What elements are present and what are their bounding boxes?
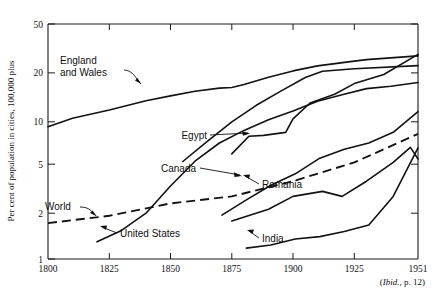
- y-tick-label-50: 50: [34, 20, 44, 30]
- arrowhead-egypt: [242, 131, 250, 136]
- citation-rest: , p. 12): [400, 277, 426, 287]
- annotation-united-states: United States: [100, 226, 180, 240]
- x-ticks: [109, 24, 354, 259]
- annotation-romania: Romania: [243, 175, 302, 191]
- arrowhead-canada: [234, 172, 242, 177]
- arrowhead-england: [135, 78, 141, 84]
- arrowhead-romania: [243, 175, 250, 180]
- axes-frame: [48, 24, 418, 259]
- label-romania: Romania: [262, 179, 302, 190]
- y-axis-title: Per cent of population in cities, 100,00…: [6, 60, 16, 222]
- x-tick-label-1800: 1800: [39, 264, 58, 274]
- label-england-line1: England: [60, 55, 97, 66]
- x-tick-label-1850: 1850: [161, 264, 180, 274]
- series-line-world: [48, 134, 418, 223]
- figure-container: 50 20 10 5 2 1 1800 1825 1850 1875 1900 …: [0, 0, 433, 291]
- figure-citation: (Ibid., p. 12): [380, 277, 425, 287]
- chart-svg: 50 20 10 5 2 1 1800 1825 1850 1875 1900 …: [0, 0, 433, 291]
- y-tick-label-10: 10: [34, 117, 44, 127]
- x-tick-label-1825: 1825: [100, 264, 119, 274]
- label-canada: Canada: [161, 163, 196, 174]
- citation-ibid: Ibid.: [383, 277, 400, 287]
- y-tick-label-1: 1: [38, 255, 43, 265]
- y-tick-label-5: 5: [38, 160, 43, 170]
- arrowhead-united-states: [100, 226, 107, 231]
- label-england-line2: and Wales: [60, 67, 107, 78]
- x-tick-label-1900: 1900: [284, 264, 303, 274]
- y-tick-labels: 50 20 10 5 2 1: [34, 20, 44, 265]
- y-tick-label-2: 2: [38, 209, 43, 219]
- annotation-canada: Canada: [161, 163, 242, 177]
- x-tick-label-1951: 1951: [409, 264, 428, 274]
- label-world: World: [45, 201, 71, 212]
- annotation-india: India: [247, 230, 284, 245]
- series-line-united-states: [97, 83, 418, 242]
- label-india: India: [262, 233, 284, 244]
- y-tick-label-20: 20: [34, 68, 44, 78]
- leader-canada: [200, 168, 240, 175]
- x-tick-label-1925: 1925: [345, 264, 364, 274]
- annotation-world: World: [45, 201, 97, 217]
- series-line-romania: [232, 147, 418, 221]
- arrowhead-world: [90, 211, 97, 217]
- x-tick-label-1875: 1875: [222, 264, 241, 274]
- y-ticks: [48, 24, 418, 259]
- annotation-england-and-wales: England and Wales: [60, 55, 141, 84]
- label-egypt: Egypt: [181, 130, 207, 141]
- label-united-states: United States: [120, 228, 180, 239]
- series-line-upper-unlabeled: [183, 66, 418, 162]
- series-paths: [48, 54, 418, 248]
- x-tick-labels: 1800 1825 1850 1875 1900 1925 1951: [39, 264, 428, 274]
